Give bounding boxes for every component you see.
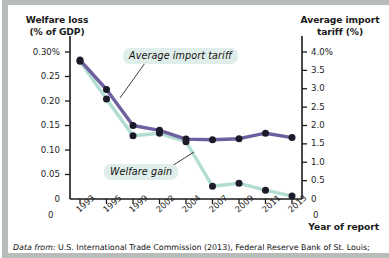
left-axis-zero-label: 0 xyxy=(48,210,53,220)
left-axis-tick-3: 0.15 xyxy=(26,120,60,130)
data-point-welfare-gain-2011 xyxy=(262,187,269,194)
right-axis-tick-4: 2.0 xyxy=(311,120,345,130)
left-axis-tick-0: 0.30% xyxy=(26,47,60,57)
right-axis-tick-6: 1.0 xyxy=(311,157,345,167)
right-axis-zero-label: 0 xyxy=(313,210,318,220)
right-axis-tick-7: 0.5 xyxy=(311,175,345,185)
right-axis-tick-5: 1.5 xyxy=(311,138,345,148)
left-axis-tick-1: 0.25 xyxy=(26,71,60,81)
right-axis-tick-8: 0 xyxy=(311,194,345,204)
callout-leader-lines xyxy=(120,63,194,171)
data-point-average-import-tariff-2009 xyxy=(236,135,243,142)
data-point-average-import-tariff-1999 xyxy=(130,122,137,129)
right-axis-tick-2: 3.0 xyxy=(311,83,345,93)
left-axis-tick-4: 0.10 xyxy=(26,145,60,155)
data-point-welfare-gain-1999 xyxy=(130,132,137,139)
leader-line-tariff xyxy=(120,63,145,98)
left-axis-tick-5: 0.05 xyxy=(26,169,60,179)
data-point-average-import-tariff-2004 xyxy=(183,136,190,143)
left-axis-tick-2: 0.20 xyxy=(26,96,60,106)
right-axis-tick-1: 3.5 xyxy=(311,65,345,75)
data-point-average-import-tariff-2002 xyxy=(156,127,163,134)
right-axis-tick-3: 2.5 xyxy=(311,102,345,112)
right-axis-tick-0: 4.0% xyxy=(311,47,345,57)
source-note: Data from: U.S. International Trade Comm… xyxy=(13,243,370,252)
data-point-welfare-gain-2009 xyxy=(236,180,243,187)
annotation-average-import-tariff: Average import tariff xyxy=(123,48,238,64)
data-point-average-import-tariff-2007 xyxy=(209,136,216,143)
data-point-average-import-tariff-1993 xyxy=(77,57,84,64)
data-point-average-import-tariff-1995 xyxy=(103,86,110,93)
average-import-tariff-line xyxy=(80,60,292,140)
data-point-welfare-gain-1995 xyxy=(103,96,110,103)
source-note-lead: Data from: xyxy=(13,243,56,252)
data-point-average-import-tariff-2011 xyxy=(262,130,269,137)
source-note-text: U.S. International Trade Commission (201… xyxy=(56,243,370,252)
left-axis-tick-6: 0 xyxy=(26,194,60,204)
data-point-welfare-gain-2007 xyxy=(209,183,216,190)
data-point-average-import-tariff-2013 xyxy=(289,134,296,141)
annotation-welfare-gain: Welfare gain xyxy=(104,164,178,180)
chart-figure: Welfare loss (% of GDP) Average import t… xyxy=(0,0,389,258)
